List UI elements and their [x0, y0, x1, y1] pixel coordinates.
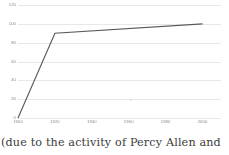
- y-tick-label: 60: [11, 59, 16, 63]
- x-tick-label: 1960: [124, 120, 134, 124]
- y-axis-tick-labels: 020406080100120: [0, 0, 18, 123]
- y-tick-label: 100: [9, 22, 16, 26]
- series-line-layer: [18, 5, 221, 118]
- gridline: [18, 118, 221, 119]
- y-tick-label: 20: [11, 97, 16, 101]
- y-tick-label: 80: [11, 41, 16, 45]
- figure-container: 020406080100120 190019201940196019802000…: [0, 0, 229, 155]
- plot-area: [18, 5, 221, 118]
- x-tick-label: 2000: [198, 120, 208, 124]
- x-tick-label: 1920: [50, 120, 60, 124]
- x-axis-tick-labels: 190019201940196019802000: [18, 120, 221, 130]
- line-chart: 020406080100120 190019201940196019802000: [0, 0, 229, 130]
- x-tick-label: 1980: [161, 120, 171, 124]
- series-line-1: [18, 24, 203, 118]
- figure-caption: (due to the activity of Percy Allen and: [0, 134, 229, 155]
- caption-text: (due to the activity of Percy Allen and: [1, 135, 229, 151]
- x-tick-label: 1900: [13, 120, 23, 124]
- y-tick-label: 120: [9, 3, 16, 7]
- x-tick-label: 1940: [87, 120, 97, 124]
- y-tick-label: 40: [11, 78, 16, 82]
